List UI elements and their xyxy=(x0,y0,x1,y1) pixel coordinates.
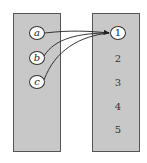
codomain-element-2: 2 xyxy=(110,53,126,65)
codomain-element-5: 5 xyxy=(110,124,126,136)
domain-element-b: b xyxy=(29,51,45,65)
arrow-c-to-1 xyxy=(44,33,109,80)
domain-element-a: a xyxy=(29,26,45,40)
codomain-element-3: 3 xyxy=(110,77,126,89)
domain-element-c: c xyxy=(29,75,45,89)
codomain-element-1: 1 xyxy=(110,26,126,40)
codomain-element-4: 4 xyxy=(110,101,126,113)
arrow-a-to-1 xyxy=(45,31,109,33)
arrow-b-to-1 xyxy=(44,33,109,56)
